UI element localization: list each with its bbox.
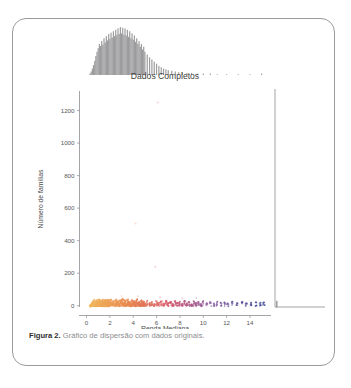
scatter-point	[168, 305, 170, 307]
scatter-point	[200, 303, 202, 305]
y-tick-label: 0	[71, 302, 75, 309]
scatter-point	[122, 299, 124, 301]
scatter-outliers-group	[110, 101, 197, 300]
x-tick-label: 4	[131, 319, 135, 326]
scatter-point	[177, 302, 179, 304]
scatter-point	[146, 305, 148, 307]
scatter-point	[131, 300, 133, 302]
y-axis-ticks: 020040060080010001200	[61, 107, 80, 309]
scatter-point	[98, 299, 100, 301]
scatter-outlier-point	[121, 295, 123, 297]
scatter-point	[124, 300, 126, 302]
histogram-bar	[94, 61, 95, 75]
scatter-point	[195, 302, 197, 304]
histogram-bar	[109, 39, 110, 75]
histogram-bar	[112, 38, 113, 75]
figure-card: Dados Completos 020040060080010001200 02…	[12, 18, 335, 366]
histogram-bar	[117, 28, 118, 75]
histogram-bar	[127, 30, 128, 75]
histogram-bar	[131, 33, 132, 75]
plot-region: Dados Completos 020040060080010001200 02…	[13, 19, 336, 329]
histogram-bar	[136, 38, 137, 75]
scatter-outlier-point	[135, 223, 137, 225]
x-axis-title: Renda Mediana	[141, 325, 189, 329]
scatter-point	[186, 302, 188, 304]
scatter-point	[202, 304, 204, 306]
histogram-bar	[100, 46, 101, 75]
scatter-point	[224, 305, 226, 307]
scatter-point	[146, 300, 148, 302]
histogram-bar	[110, 33, 111, 75]
scatter-point	[250, 302, 252, 304]
scatter-outlier-point	[137, 295, 139, 297]
marginal-right-frame	[275, 89, 325, 307]
scatter-point	[184, 300, 186, 302]
scatter-point	[167, 302, 169, 304]
histogram-bar	[226, 74, 227, 75]
scatter-outlier-point	[159, 296, 161, 298]
scatter-point	[181, 303, 183, 305]
x-tick-label: 12	[223, 319, 230, 326]
histogram-bar	[124, 28, 125, 75]
figure-caption-text: Gráfico de dispersão com dados originais…	[63, 331, 205, 340]
scatter-point	[198, 301, 200, 303]
y-tick-label: 200	[64, 269, 75, 276]
histogram-bar	[126, 35, 127, 75]
x-tick-label: 14	[247, 319, 254, 326]
histogram-bar	[249, 74, 250, 75]
histogram-bar	[113, 31, 114, 75]
scatter-point	[140, 300, 142, 302]
histogram-bar	[89, 74, 90, 75]
marginal-right-histogram	[275, 89, 325, 307]
scatter-outlier-point	[154, 266, 156, 268]
scatter-point	[170, 301, 172, 303]
y-tick-label: 600	[64, 204, 75, 211]
histogram-bar	[108, 34, 109, 75]
histogram-bar	[98, 48, 99, 75]
y-tick-label: 1200	[61, 107, 75, 114]
scatter-point	[174, 304, 176, 306]
scatter-point	[245, 302, 247, 304]
scatter-point	[158, 302, 160, 304]
scatter-outlier-point	[195, 297, 197, 299]
scatter-point	[227, 302, 229, 304]
histogram-bar	[101, 41, 102, 75]
scatter-point	[163, 303, 165, 305]
scatter-point	[213, 305, 215, 307]
scatter-point	[223, 301, 225, 303]
scatter-point	[147, 303, 149, 305]
x-tick-label: 0	[85, 319, 89, 326]
histogram-bar	[120, 27, 121, 75]
scatter-point	[136, 299, 138, 301]
histogram-bar	[102, 45, 103, 75]
scatter-point	[191, 303, 193, 305]
histogram-bar	[133, 40, 134, 75]
scatter-point	[209, 301, 211, 303]
scatter-point	[227, 305, 229, 307]
scatter-point	[157, 304, 159, 306]
scatter-points-group	[89, 298, 266, 308]
scatter-point	[250, 304, 252, 306]
scatter-point	[264, 304, 266, 306]
histogram-bar	[119, 34, 120, 75]
scatter-point	[151, 301, 153, 303]
scatter-point	[179, 301, 181, 303]
scatter-point	[206, 302, 208, 304]
scatter-point	[245, 305, 247, 307]
scatter-point	[144, 302, 146, 304]
scatter-point	[262, 304, 264, 306]
y-axis-title: Número de famílias	[37, 169, 44, 229]
histogram-bar	[123, 35, 124, 75]
histogram-bar	[107, 40, 108, 75]
scatter-point	[153, 305, 155, 307]
scatter-outlier-point	[181, 297, 183, 299]
histogram-bar	[115, 30, 116, 75]
histogram-bar	[238, 74, 239, 75]
scatter-point	[210, 305, 212, 307]
histogram-bar	[122, 28, 123, 75]
histogram-bar	[114, 36, 115, 75]
scatter-point	[231, 304, 233, 306]
scatter-point	[115, 299, 117, 301]
scatter-point	[129, 301, 131, 303]
y-tick-label: 400	[64, 237, 75, 244]
